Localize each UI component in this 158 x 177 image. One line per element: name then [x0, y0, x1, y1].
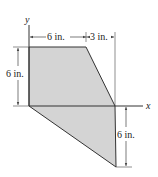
shaded-area [29, 47, 116, 167]
x-axis-label: x [145, 100, 151, 111]
dim-left-height-label: 6 in. [6, 68, 24, 79]
y-axis-label: y [24, 14, 30, 25]
arrowhead-icon [111, 36, 114, 38]
dim-right-height-label: 6 in. [117, 129, 135, 140]
arrowhead-icon [30, 36, 33, 38]
arrowhead-icon [17, 48, 19, 51]
arrowhead-icon [17, 102, 19, 105]
dim-top-width-label: 6 in. [47, 31, 65, 42]
arrowhead-icon [125, 163, 127, 166]
dim-top-offset-label: 3 in. [90, 31, 108, 42]
arrowhead-icon [83, 36, 86, 38]
composite-area-diagram: y x 6 in. 3 in. 6 in. 6 in. [0, 0, 158, 177]
arrowhead-icon [125, 107, 127, 110]
